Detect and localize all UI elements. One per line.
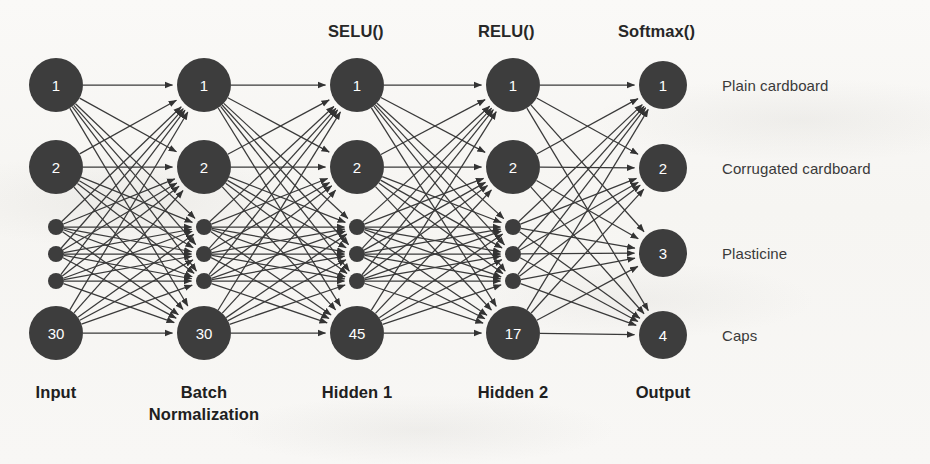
class-label-caps: Caps bbox=[722, 327, 757, 344]
ellipsis-dot bbox=[349, 273, 365, 289]
edge bbox=[365, 284, 484, 324]
layer-label-batchnorm-line2: Normalization bbox=[124, 404, 284, 426]
network-node-label: 1 bbox=[52, 77, 60, 94]
activation-label-selu: SELU() bbox=[328, 22, 384, 41]
edge bbox=[362, 110, 493, 275]
edge bbox=[228, 100, 329, 154]
network-node-label: 17 bbox=[505, 325, 522, 342]
edge bbox=[64, 255, 192, 278]
edge bbox=[518, 108, 646, 275]
edge bbox=[222, 105, 348, 245]
network-node-label: 30 bbox=[196, 325, 213, 342]
network-node-label: 2 bbox=[509, 159, 517, 176]
layer-label-hidden1-line1: Hidden 1 bbox=[292, 382, 422, 404]
network-node-label: 45 bbox=[349, 325, 366, 342]
edge bbox=[371, 108, 496, 306]
ellipsis-dot bbox=[349, 219, 365, 235]
network-node-label: 2 bbox=[659, 160, 667, 177]
network-node-label: 1 bbox=[200, 77, 208, 94]
edge bbox=[540, 167, 635, 168]
layer-label-hidden-1: Hidden 1 bbox=[292, 382, 422, 404]
layer-label-output: Output bbox=[603, 382, 723, 404]
layer-label-batch-normalization: Batch Normalization bbox=[124, 382, 284, 426]
ellipsis-dot bbox=[196, 273, 212, 289]
network-node-label: 4 bbox=[659, 327, 667, 344]
ellipsis-dot bbox=[505, 246, 521, 262]
ellipsis-dot bbox=[48, 219, 64, 235]
edge bbox=[64, 284, 175, 323]
ellipsis-dot bbox=[196, 219, 212, 235]
edge bbox=[212, 284, 328, 323]
ellipsis-dot bbox=[505, 219, 521, 235]
ellipsis-dot bbox=[48, 273, 64, 289]
layer-label-batchnorm-line1: Batch bbox=[124, 382, 284, 404]
network-node-label: 2 bbox=[200, 159, 208, 176]
network-node-label: 30 bbox=[48, 325, 65, 342]
edge bbox=[364, 258, 485, 319]
layer-label-hidden-2: Hidden 2 bbox=[448, 382, 578, 404]
edge bbox=[218, 108, 340, 306]
diagram-canvas: 12301230124512171234 SELU() RELU() Softm… bbox=[0, 0, 930, 464]
edge bbox=[74, 105, 196, 244]
layer-label-hidden2-line1: Hidden 2 bbox=[448, 382, 578, 404]
edge bbox=[212, 255, 345, 278]
edge-layer bbox=[61, 85, 649, 335]
activation-label-softmax: Softmax() bbox=[618, 22, 695, 41]
edge bbox=[521, 253, 635, 254]
class-label-plain-cardboard: Plain cardboard bbox=[722, 77, 829, 94]
class-label-corrugated-cardboard: Corrugated cardboard bbox=[722, 160, 871, 177]
network-node-label: 2 bbox=[353, 159, 361, 176]
edge bbox=[209, 110, 338, 275]
edge bbox=[211, 258, 329, 319]
ellipsis-dot bbox=[505, 273, 521, 289]
edge bbox=[375, 105, 504, 245]
network-node-label: 1 bbox=[509, 77, 517, 94]
network-node-label: 1 bbox=[353, 77, 361, 94]
edge bbox=[520, 182, 638, 250]
edge bbox=[365, 255, 501, 279]
edge bbox=[379, 183, 503, 274]
class-label-plasticine: Plasticine bbox=[722, 245, 787, 262]
edge bbox=[80, 100, 177, 154]
edge bbox=[540, 333, 635, 334]
network-node-label: 2 bbox=[52, 159, 60, 176]
ellipsis-dot bbox=[349, 246, 365, 262]
layer-label-input-line1: Input bbox=[0, 382, 112, 404]
edge bbox=[70, 108, 188, 306]
edge bbox=[226, 183, 347, 273]
ellipsis-dot bbox=[196, 246, 212, 262]
layer-label-input: Input bbox=[0, 382, 112, 404]
activation-label-relu: RELU() bbox=[478, 22, 535, 41]
ellipsis-dot bbox=[48, 246, 64, 262]
network-node-label: 3 bbox=[659, 245, 667, 262]
network-node-label: 1 bbox=[659, 77, 667, 94]
layer-label-output-line1: Output bbox=[603, 382, 723, 404]
edge bbox=[374, 106, 505, 271]
